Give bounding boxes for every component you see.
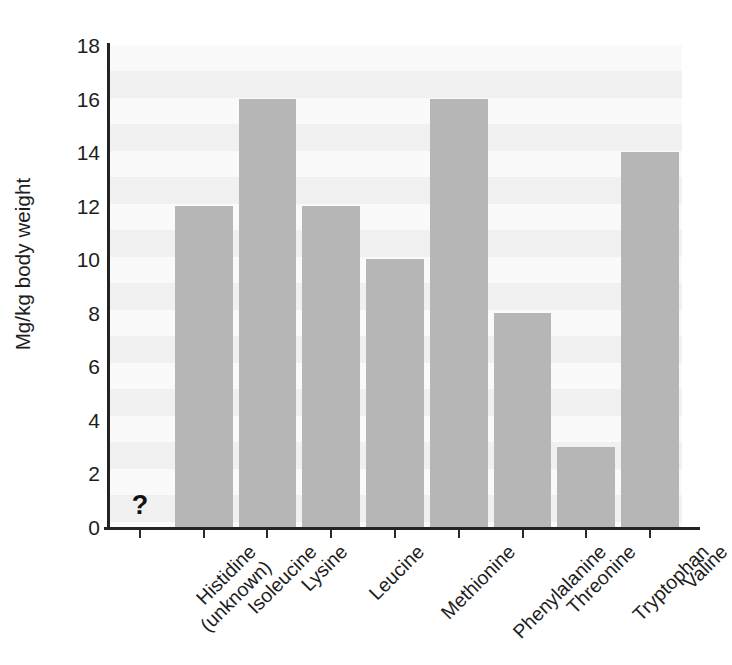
y-axis-tick-18: 18 — [44, 35, 100, 56]
y-axis-tick-16: 16 — [44, 88, 100, 109]
bar-slot: ? — [108, 45, 172, 527]
bar-leucine[interactable] — [302, 206, 360, 527]
y-axis-title: Mg/kg body weight — [0, 0, 46, 527]
x-axis-tick-mark — [203, 529, 205, 538]
x-axis-tick-mark — [649, 529, 651, 538]
y-axis-tick-labels: 181614121086420 — [44, 0, 100, 560]
x-axis-label-line1: Methionine — [436, 540, 519, 623]
bar-slot — [236, 45, 300, 527]
y-axis-title-text: Mg/kg body weight — [11, 177, 35, 350]
y-axis-tick-6: 6 — [44, 356, 100, 377]
x-axis-tick-mark — [394, 529, 396, 538]
x-axis-label-methionine: Methionine — [437, 541, 520, 624]
x-axis-label-line1: Leucine — [365, 540, 429, 604]
bar-phenylalanine[interactable] — [430, 99, 488, 527]
bar-slot — [427, 45, 491, 527]
x-axis-tick-mark — [522, 529, 524, 538]
bar-lysine[interactable] — [239, 99, 297, 527]
x-axis-tick-mark — [585, 529, 587, 538]
y-axis-tick-14: 14 — [44, 142, 100, 163]
y-axis-tick-8: 8 — [44, 302, 100, 323]
bar-slot — [172, 45, 236, 527]
bar-slot — [554, 45, 618, 527]
bar-tryptophan[interactable] — [557, 447, 615, 527]
bar-methionine[interactable] — [366, 259, 424, 527]
x-axis-tick-mark — [330, 529, 332, 538]
y-axis-tick-4: 4 — [44, 409, 100, 430]
bars-layer: ? — [108, 45, 682, 527]
y-axis-tick-10: 10 — [44, 249, 100, 270]
bar-slot — [618, 45, 682, 527]
bar-slot — [299, 45, 363, 527]
bar-valine[interactable] — [621, 152, 679, 527]
x-axis-label-leucine: Leucine — [365, 541, 429, 605]
bar-slot — [491, 45, 555, 527]
y-axis-tick-0: 0 — [44, 517, 100, 538]
y-axis-tick-12: 12 — [44, 195, 100, 216]
bar-threonine[interactable] — [494, 313, 552, 527]
x-axis-line — [104, 527, 700, 530]
bar-slot — [363, 45, 427, 527]
unknown-value-question-mark: ? — [108, 490, 172, 521]
y-axis-tick-2: 2 — [44, 463, 100, 484]
x-axis-tick-mark — [139, 529, 141, 538]
x-axis-tick-mark — [458, 529, 460, 538]
x-axis-tick-mark — [266, 529, 268, 538]
bar-isoleucine[interactable] — [175, 206, 233, 527]
